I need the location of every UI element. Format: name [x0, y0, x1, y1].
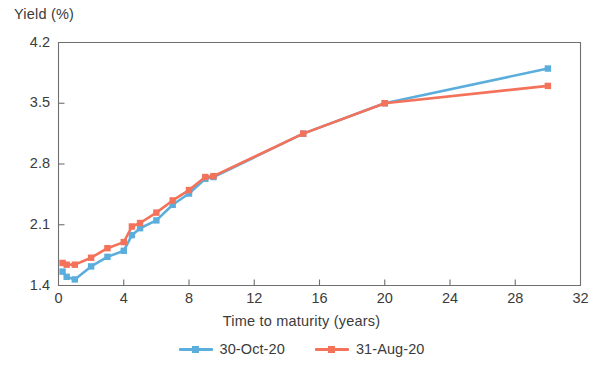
- data-point-marker: [72, 261, 78, 267]
- data-point-marker: [382, 100, 388, 106]
- data-point-marker: [137, 220, 143, 226]
- data-point-marker: [153, 209, 159, 215]
- legend-item-series-1[interactable]: 30-Oct-20: [179, 341, 285, 357]
- data-point-marker: [121, 239, 127, 245]
- y-tick-label: 2.8: [8, 155, 50, 171]
- chart-legend: 30-Oct-20 31-Aug-20: [0, 341, 603, 357]
- data-point-marker: [210, 173, 216, 179]
- yield-curve-chart: Yield (%) 1.42.12.83.54.2 04812162024283…: [0, 0, 603, 370]
- data-point-marker: [104, 245, 110, 251]
- x-tick-label: 20: [365, 290, 405, 306]
- x-tick-label: 0: [39, 290, 79, 306]
- x-axis-label: Time to maturity (years): [0, 313, 603, 329]
- data-point-marker: [186, 187, 192, 193]
- y-tick-marks: [59, 103, 65, 225]
- data-point-marker: [545, 65, 551, 71]
- x-tick-label: 8: [169, 290, 209, 306]
- x-tick-label: 32: [561, 290, 601, 306]
- data-point-marker: [545, 83, 551, 89]
- y-tick-label: 4.2: [8, 34, 50, 50]
- legend-marker-icon-series-1: [179, 343, 213, 355]
- data-point-marker: [129, 223, 135, 229]
- y-tick-label: 2.1: [8, 216, 50, 232]
- x-tick-marks: [124, 280, 516, 286]
- x-tick-label: 24: [430, 290, 470, 306]
- y-tick-label: 3.5: [8, 94, 50, 110]
- x-tick-label: 12: [234, 290, 274, 306]
- legend-marker-icon-series-2: [315, 343, 349, 355]
- series-line-1: [59, 65, 551, 282]
- x-tick-label: 28: [495, 290, 535, 306]
- data-point-marker: [88, 263, 94, 269]
- data-point-marker: [121, 248, 127, 254]
- data-point-marker: [169, 197, 175, 203]
- data-point-marker: [88, 255, 94, 261]
- data-point-marker: [202, 174, 208, 180]
- x-tick-label: 16: [300, 290, 340, 306]
- data-point-marker: [63, 274, 69, 280]
- series-layer: [59, 65, 551, 282]
- data-point-marker: [153, 217, 159, 223]
- data-point-marker: [300, 130, 306, 136]
- series-line-2: [59, 83, 551, 268]
- data-point-marker: [63, 261, 69, 267]
- legend-label-series-1: 30-Oct-20: [220, 341, 285, 357]
- legend-item-series-2[interactable]: 31-Aug-20: [315, 341, 425, 357]
- data-point-marker: [104, 254, 110, 260]
- legend-label-series-2: 31-Aug-20: [356, 341, 425, 357]
- data-point-marker: [72, 276, 78, 282]
- x-tick-label: 4: [104, 290, 144, 306]
